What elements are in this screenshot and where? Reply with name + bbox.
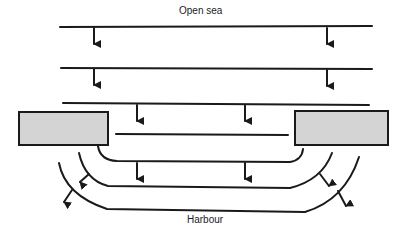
- wavefront-1: [60, 26, 372, 27]
- wavefront-3: [63, 103, 369, 105]
- diffraction-diagram: [0, 0, 409, 235]
- right-breakwater: [295, 111, 388, 145]
- arrow-diffracted-right-1: [320, 174, 329, 186]
- open-sea-label: Open sea: [179, 5, 222, 16]
- arrow-diffracted-left-1: [80, 174, 89, 182]
- wavefront-gap: [116, 134, 288, 135]
- arrow-diffracted-right-2: [338, 191, 346, 206]
- arrow-diffracted-left-2: [64, 190, 72, 202]
- arrows-incident: [94, 28, 327, 121]
- diffracted-wavefront-1: [98, 146, 303, 162]
- wavefront-2: [61, 68, 372, 69]
- arrows-diffracted: [137, 163, 245, 179]
- left-breakwater: [19, 112, 108, 145]
- diffracted-wavefront-2: [79, 153, 332, 188]
- harbour-label: Harbour: [187, 214, 223, 225]
